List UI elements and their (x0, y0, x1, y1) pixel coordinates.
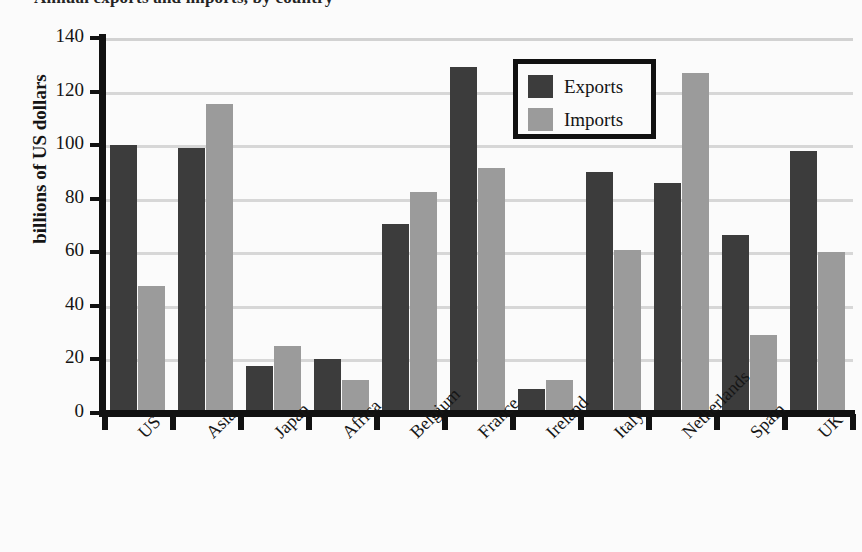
plot-area (105, 38, 853, 413)
bar-france-exports (450, 67, 477, 413)
bar-netherlands-imports (682, 73, 709, 413)
y-axis-tick (90, 197, 101, 201)
bar-asia-imports (206, 104, 233, 413)
bar-belgium-imports (410, 192, 437, 413)
bar-italy-exports (586, 172, 613, 413)
bar-chart: Annual exports and imports, by country b… (0, 0, 862, 552)
bar-italy-imports (614, 250, 641, 413)
y-axis-tick-label: 60 (32, 239, 84, 261)
y-axis-tick-label: 0 (32, 400, 84, 422)
y-axis-tick-label: 40 (32, 293, 84, 315)
x-axis-tick (850, 414, 856, 430)
legend-swatch-imports (528, 108, 553, 131)
x-axis-tick (238, 414, 244, 430)
y-axis-tick (90, 36, 101, 40)
bar-us-exports (110, 145, 137, 413)
y-axis-tick-label: 80 (32, 186, 84, 208)
bar-france-imports (478, 168, 505, 413)
x-axis-tick (102, 414, 108, 430)
gridline (105, 92, 853, 95)
bar-africa-exports (314, 359, 341, 413)
legend-label-imports: Imports (564, 110, 623, 129)
bar-uk-exports (790, 151, 817, 414)
y-axis-tick (90, 250, 101, 254)
chart-legend: Exports Imports (513, 59, 656, 139)
gridline (105, 38, 853, 41)
y-axis-tick-label: 120 (32, 79, 84, 101)
y-axis-tick (90, 411, 101, 415)
bar-asia-exports (178, 148, 205, 413)
bar-us-imports (138, 286, 165, 413)
x-axis-tick (170, 414, 176, 430)
legend-label-exports: Exports (564, 77, 623, 96)
x-axis-tick (646, 414, 652, 430)
y-axis-tick (90, 304, 101, 308)
bar-japan-exports (246, 366, 273, 413)
y-axis-tick (90, 90, 101, 94)
y-axis-tick-label: 20 (32, 346, 84, 368)
y-axis-tick-label: 100 (32, 132, 84, 154)
bar-netherlands-exports (654, 183, 681, 413)
bar-uk-imports (818, 252, 845, 413)
y-axis-tick-label: 140 (32, 25, 84, 47)
bar-belgium-exports (382, 224, 409, 413)
y-axis-tick (90, 143, 101, 147)
legend-item-imports: Imports (528, 103, 651, 136)
y-axis-tick (90, 357, 101, 361)
y-axis-tick-labels: 020406080100120140 (22, 0, 84, 552)
legend-item-exports: Exports (528, 70, 651, 103)
legend-swatch-exports (528, 75, 553, 98)
